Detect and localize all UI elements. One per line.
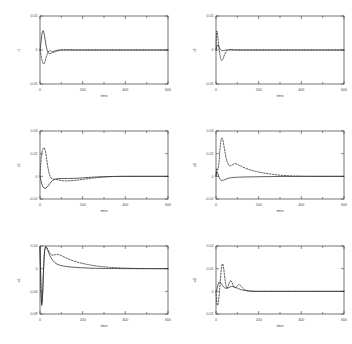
x-tick-label: 0: [215, 318, 217, 322]
series-dashed: [216, 31, 344, 61]
x-tick-label: 0: [39, 88, 41, 92]
x-tick-label: 600: [341, 203, 347, 207]
y-tick-label: 0.04: [31, 244, 38, 248]
y-tick-label: 0.04: [207, 129, 214, 133]
plot-svg: 0200400600-0.0200.020.04timev1: [0, 115, 176, 230]
series-solid: [40, 176, 168, 188]
y-tick-label: 0: [36, 267, 38, 271]
axes-box: [40, 246, 168, 314]
y-tick-label: -0.04: [29, 290, 37, 294]
plot-svg: 0200400600-0.08-0.0400.04timex1: [0, 230, 176, 344]
y-tick-label: 0.04: [31, 129, 38, 133]
figure-canvas: 0200400600-0.0500.05timei1 0200400600-0.…: [0, 0, 352, 344]
x-tick-label: 200: [256, 318, 262, 322]
y-tick-label: 0.02: [207, 152, 214, 156]
x-tick-label: 0: [39, 203, 41, 207]
plot-panel-x1: 0200400600-0.08-0.0400.04timex1: [0, 230, 176, 344]
x-tick-label: 600: [341, 88, 347, 92]
y-tick-label: 0.05: [207, 14, 214, 18]
y-tick-label: 0.02: [31, 152, 38, 156]
y-axis-label: i2: [192, 48, 197, 52]
series-dashed: [40, 246, 168, 302]
x-axis-label: time: [276, 209, 283, 213]
y-tick-label: -0.01: [205, 312, 213, 316]
plot-panel-i1: 0200400600-0.0500.05timei1: [0, 0, 176, 115]
y-tick-label: 0.01: [207, 267, 214, 271]
series-solid: [216, 282, 344, 292]
x-tick-label: 0: [215, 203, 217, 207]
plot-panel-i2: 0200400600-0.0500.05timei2: [176, 0, 352, 115]
x-axis-label: time: [276, 324, 283, 328]
x-axis-label: time: [100, 94, 107, 98]
y-tick-label: 0: [36, 48, 38, 52]
x-tick-label: 600: [341, 318, 347, 322]
plot-panel-v2: 0200400600-0.0200.020.04timev2: [176, 115, 352, 230]
x-tick-label: 400: [298, 318, 304, 322]
y-tick-label: 0.02: [207, 244, 214, 248]
series-dashed: [216, 264, 344, 306]
series-dashed: [40, 148, 168, 181]
y-tick-label: -0.08: [29, 312, 37, 316]
plot-svg: 0200400600-0.0200.020.04timev2: [176, 115, 352, 230]
plot-panel-x2: 0200400600-0.0100.010.02timex2: [176, 230, 352, 344]
x-tick-label: 400: [298, 203, 304, 207]
y-tick-label: 0: [212, 175, 214, 179]
axes-box: [216, 131, 344, 199]
y-tick-label: 0: [36, 175, 38, 179]
x-tick-label: 200: [80, 88, 86, 92]
axes-box: [216, 246, 344, 314]
x-tick-label: 200: [80, 318, 86, 322]
y-tick-label: -0.05: [205, 82, 213, 86]
series-solid: [40, 247, 168, 305]
x-tick-label: 600: [165, 88, 171, 92]
y-axis-label: x2: [192, 277, 197, 282]
plot-panel-v1: 0200400600-0.0200.020.04timev1: [0, 115, 176, 230]
x-tick-label: 200: [256, 203, 262, 207]
x-tick-label: 0: [215, 88, 217, 92]
x-axis-label: time: [276, 94, 283, 98]
y-tick-label: -0.02: [205, 197, 213, 201]
y-tick-label: -0.02: [29, 197, 37, 201]
x-tick-label: 400: [122, 203, 128, 207]
x-axis-label: time: [100, 209, 107, 213]
y-tick-label: 0: [212, 290, 214, 294]
plot-svg: 0200400600-0.0500.05timei1: [0, 0, 176, 115]
series-dashed: [40, 50, 168, 64]
x-axis-label: time: [100, 324, 107, 328]
series-dashed: [216, 138, 344, 176]
x-tick-label: 600: [165, 318, 171, 322]
x-tick-label: 200: [256, 88, 262, 92]
x-tick-label: 0: [39, 318, 41, 322]
y-axis-label: x1: [16, 277, 21, 282]
plot-svg: 0200400600-0.0100.010.02timex2: [176, 230, 352, 344]
axes-box: [40, 131, 168, 199]
y-tick-label: -0.05: [29, 82, 37, 86]
y-axis-label: v1: [16, 162, 21, 167]
x-tick-label: 400: [298, 88, 304, 92]
x-tick-label: 400: [122, 318, 128, 322]
x-tick-label: 200: [80, 203, 86, 207]
x-tick-label: 400: [122, 88, 128, 92]
y-axis-label: i1: [16, 48, 21, 52]
x-tick-label: 600: [165, 203, 171, 207]
y-tick-label: 0: [212, 48, 214, 52]
y-axis-label: v2: [192, 162, 197, 167]
plot-svg: 0200400600-0.0500.05timei2: [176, 0, 352, 115]
y-tick-label: 0.05: [31, 14, 38, 18]
